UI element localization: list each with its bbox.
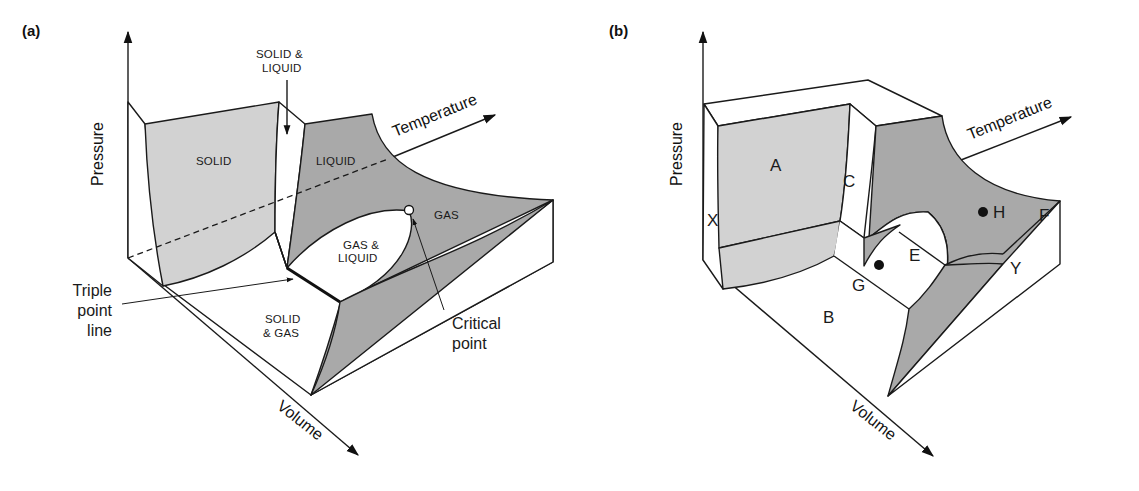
- region-liquid: LIQUID: [316, 155, 356, 167]
- region-solid-gas-line1: SOLID: [265, 313, 301, 325]
- region-gas: GAS: [434, 209, 459, 221]
- label-A: A: [770, 156, 782, 175]
- panel-a: (a) Pressure Temperature Volume: [22, 22, 553, 455]
- critical-point-marker: [405, 206, 414, 215]
- label-X: X: [707, 211, 718, 230]
- temperature-axis-label: Temperature: [390, 90, 480, 139]
- pressure-axis-label: Pressure: [89, 122, 106, 186]
- critical-point-label-line1: Critical: [452, 315, 501, 332]
- triple-point-label-line1: Triple: [73, 282, 113, 299]
- region-solid: SOLID: [196, 155, 232, 167]
- point-G-marker: [874, 260, 884, 270]
- temperature-axis-label-b: Temperature: [965, 93, 1055, 142]
- label-F: F: [1039, 206, 1049, 225]
- label-G: G: [852, 276, 865, 295]
- critical-point-label-line2: point: [452, 335, 487, 352]
- volume-axis-label: Volume: [274, 397, 327, 443]
- region-gas-liquid-line2: LIQUID: [338, 252, 378, 264]
- region-solid-liquid-line1: SOLID &: [256, 48, 303, 60]
- pvt-surface-figure: (a) Pressure Temperature Volume: [0, 0, 1139, 491]
- point-H-marker: [978, 207, 988, 217]
- label-Y: Y: [1010, 259, 1021, 278]
- pressure-axis-label-b: Pressure: [668, 122, 685, 186]
- panel-b-label: (b): [609, 22, 628, 39]
- triple-point-label-line2: point: [77, 302, 112, 319]
- region-gas-liquid-line1: GAS &: [343, 239, 379, 251]
- triple-point-label-line3: line: [87, 322, 112, 339]
- region-solid-gas-line2: & GAS: [263, 327, 299, 339]
- region-solid-liquid-line2: LIQUID: [262, 62, 302, 74]
- label-H: H: [993, 203, 1005, 222]
- label-C: C: [843, 172, 855, 191]
- label-E: E: [909, 246, 920, 265]
- panel-b: (b) Pressure Temperature Volume: [609, 22, 1071, 456]
- panel-a-label: (a): [22, 22, 40, 39]
- label-B: B: [823, 308, 834, 327]
